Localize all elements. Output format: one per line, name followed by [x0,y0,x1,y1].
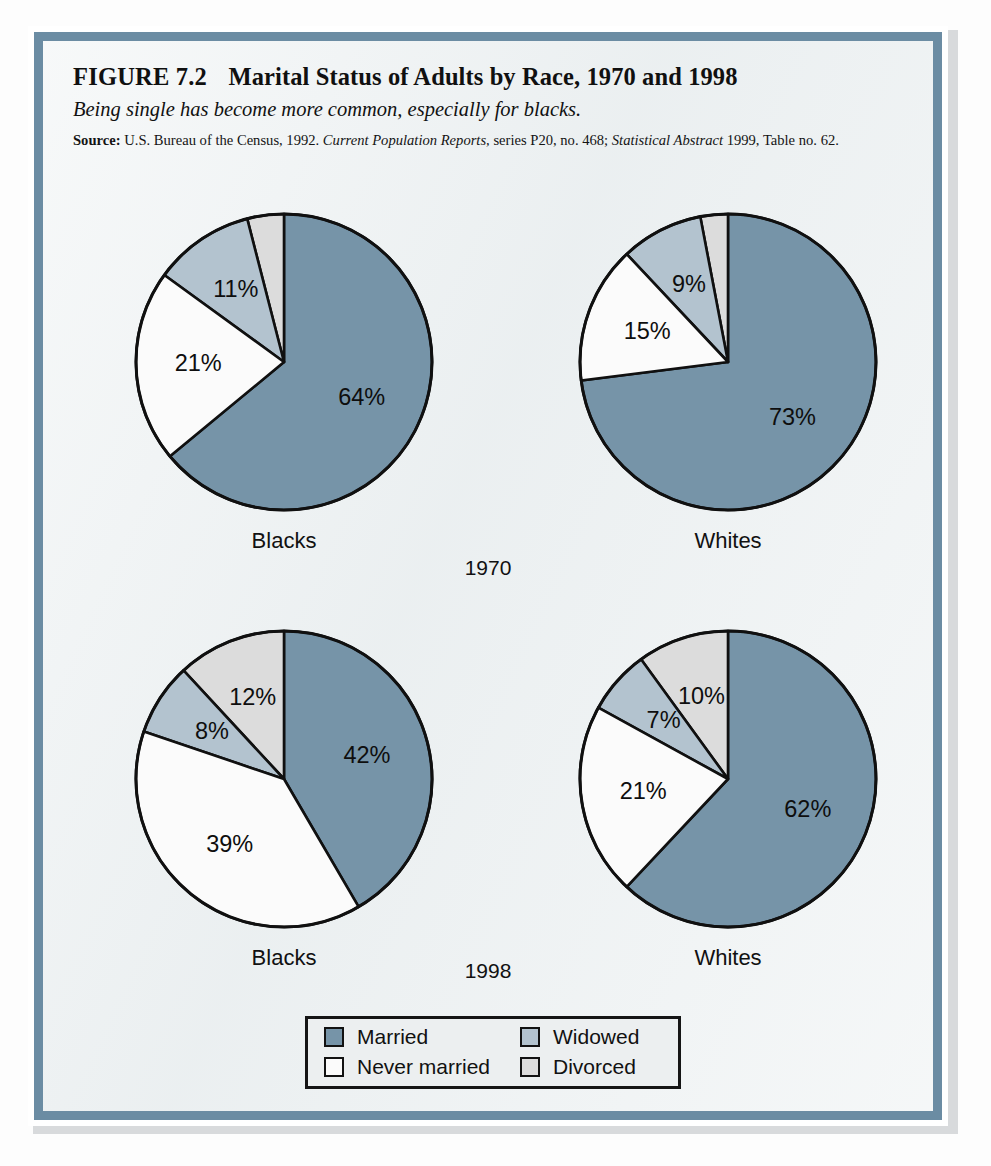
pie-value-label-never-married: 21% [620,778,667,804]
figure-outer-frame: FIGURE 7.2 Marital Status of Adults by R… [28,26,948,1126]
pie-svg-whites-1998: 62%10%7%21% [563,613,893,943]
pie-svg-blacks-1998: 42%12%8%39% [119,613,449,943]
pie-value-label-widowed: 11% [213,276,258,302]
pie-value-label-married: 42% [343,742,390,768]
source-italic-1: Current Population Reports, [323,132,490,148]
legend-swatch-widowed [520,1027,540,1047]
figure-subtitle: Being single has become more common, esp… [73,98,918,121]
pie-value-label-never-married: 15% [624,318,671,344]
source-text-2: series P20, no. 468; [493,132,608,148]
figure-source-line: Source: U.S. Bureau of the Census, 1992.… [73,132,918,149]
pie-value-label-married: 73% [769,404,816,430]
legend-item-divorced[interactable]: Divorced [520,1056,636,1077]
pie-svg-blacks-1970: 64%4%11%21% [119,196,449,526]
source-italic-2: Statistical Abstract [612,132,723,148]
figure-title-text: Marital Status of Adults by Race, 1970 a… [229,63,738,90]
figure-content-panel: FIGURE 7.2 Marital Status of Adults by R… [43,41,933,1111]
pie-value-label-divorced: 10% [678,683,725,709]
pie-chart-blacks-1998: 42%12%8%39% Blacks [119,613,449,971]
pie-value-label-widowed: 7% [647,707,681,733]
source-label: Source: [73,132,121,148]
legend-label-widowed: Widowed [553,1026,639,1047]
figure-blue-border: FIGURE 7.2 Marital Status of Adults by R… [34,32,942,1120]
legend-item-widowed[interactable]: Widowed [520,1026,639,1047]
year-label-1998: 1998 [43,959,933,983]
source-text-1: U.S. Bureau of the Census, 1992. [124,132,319,148]
chart-legend: Married Widowed Never married [305,1016,681,1089]
pie-label-blacks-1970: Blacks [119,528,449,554]
legend-row-1: Married Widowed [324,1026,678,1056]
pie-label-whites-1970: Whites [563,528,893,554]
legend-label-never-married: Never married [357,1056,490,1077]
legend-item-never-married[interactable]: Never married [324,1056,520,1077]
source-text-3: 1999, Table no. 62. [727,132,839,148]
legend-label-divorced: Divorced [553,1056,636,1077]
pie-value-label-divorced: 12% [229,684,276,710]
legend-row-2: Never married Divorced [324,1056,678,1086]
figure-title: FIGURE 7.2 Marital Status of Adults by R… [73,63,918,91]
figure-header: FIGURE 7.2 Marital Status of Adults by R… [73,63,918,149]
year-label-1970: 1970 [43,556,933,580]
pie-chart-whites-1970: 73%3%9%15% Whites [563,196,893,554]
pie-value-label-widowed: 9% [672,271,706,297]
legend-swatch-divorced [520,1057,540,1077]
legend-label-married: Married [357,1026,428,1047]
pie-value-label-never-married: 39% [206,831,253,857]
figure-page: FIGURE 7.2 Marital Status of Adults by R… [0,0,991,1166]
pie-value-label-married: 62% [784,796,831,822]
legend-swatch-never-married [324,1057,344,1077]
pie-chart-blacks-1970: 64%4%11%21% Blacks [119,196,449,554]
legend-item-married[interactable]: Married [324,1026,520,1047]
pie-value-label-married: 64% [338,384,385,410]
legend-swatch-married [324,1027,344,1047]
pie-svg-whites-1970: 73%3%9%15% [563,196,893,526]
pie-value-label-widowed: 8% [195,718,229,744]
pie-value-label-never-married: 21% [175,350,222,376]
figure-number: FIGURE 7.2 [73,63,207,90]
pie-chart-whites-1998: 62%10%7%21% Whites [563,613,893,971]
